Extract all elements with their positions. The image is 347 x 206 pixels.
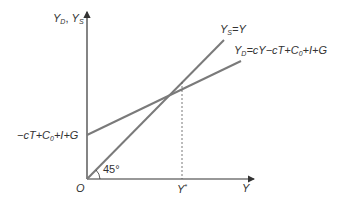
angle-arc xyxy=(96,170,100,179)
y-axis-label-main2: Y xyxy=(72,12,79,24)
demand-line-label: YD=cY−cT+C0+I+G xyxy=(234,45,327,57)
origin-label: O xyxy=(76,183,85,194)
supply-line xyxy=(87,40,224,179)
demand-line xyxy=(87,61,241,135)
demand-label-rhs-b: +I+G xyxy=(303,44,327,56)
intercept-label-b: +I+G xyxy=(54,129,78,141)
equilibrium-label: Y* xyxy=(177,183,187,195)
equilibrium-label-sup: * xyxy=(184,183,187,190)
x-axis-label: Y xyxy=(242,183,249,194)
supply-label-rhs: =Y xyxy=(232,23,246,35)
angle-label: 45° xyxy=(103,164,120,175)
y-axis-label-sub2: S xyxy=(79,18,84,25)
diagram-canvas xyxy=(0,0,347,206)
intercept-label-a: −cT+C xyxy=(17,129,50,141)
intercept-label: −cT+C0+I+G xyxy=(17,130,78,142)
supply-line-label: YS=Y xyxy=(220,24,246,36)
y-axis-label: YD, YS xyxy=(53,13,84,25)
demand-label-rhs-a: =cY−cT+C xyxy=(246,44,298,56)
